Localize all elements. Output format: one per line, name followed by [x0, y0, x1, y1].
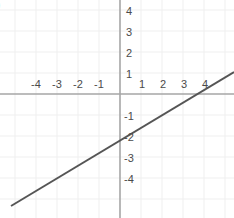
plotted-line: [11, 72, 234, 206]
x-tick-label-pos3: 3: [181, 79, 187, 90]
y-tick-label-neg1: -1: [124, 111, 134, 122]
x-tick-label-neg2: -2: [73, 79, 83, 90]
graph-canvas: [0, 0, 234, 218]
horizontal-gridlines: [0, 10, 234, 199]
x-tick-label-pos4: 4: [202, 79, 208, 90]
y-tick-label-pos3: 3: [126, 27, 132, 38]
x-tick-label-neg1: -1: [94, 79, 104, 90]
x-tick-label-neg4: -4: [31, 79, 41, 90]
x-tick-label-neg3: -3: [52, 79, 62, 90]
coordinate-plane-figure: ) -4 -3 -2 -: [0, 0, 234, 218]
y-tick-label-pos2: 2: [126, 48, 132, 59]
x-tick-label-pos2: 2: [160, 79, 166, 90]
y-tick-label-pos1: 1: [126, 69, 132, 80]
y-tick-label-neg3: -3: [124, 153, 134, 164]
y-tick-label-neg4: -4: [124, 174, 134, 185]
x-tick-label-pos1: 1: [139, 79, 145, 90]
y-tick-label-neg2: -2: [124, 132, 134, 143]
y-tick-label-pos4: 4: [126, 6, 132, 17]
